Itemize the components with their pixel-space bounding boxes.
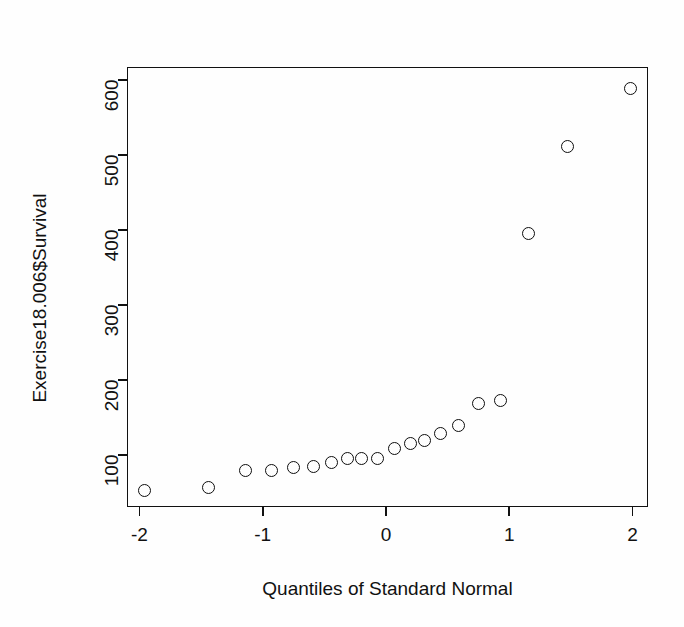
x-tick-label: 2 (603, 525, 663, 544)
x-tick-neg1 (262, 507, 264, 516)
x-tick-label: -1 (233, 525, 293, 544)
y-tick-label: 500 (102, 155, 121, 225)
x-tick-label: 0 (356, 525, 416, 544)
plot-panel-border (127, 67, 648, 507)
x-tick-2 (632, 507, 634, 516)
y-axis-title: Exercise18.006$Survival (29, 148, 51, 448)
x-tick-1 (508, 507, 510, 516)
x-tick-label: -2 (110, 525, 170, 544)
y-tick-label: 300 (102, 305, 121, 375)
y-tick-label: 600 (102, 80, 121, 150)
y-tick-label: 400 (102, 230, 121, 300)
x-tick-label: 1 (479, 525, 539, 544)
x-axis-title: Quantiles of Standard Normal (127, 578, 648, 600)
y-tick-label: 100 (102, 455, 121, 525)
x-tick-0 (385, 507, 387, 516)
qq-plot-figure: -2-1012 100200300400500600 Quantiles of … (0, 0, 684, 627)
y-tick-label: 200 (102, 380, 121, 450)
x-tick-neg2 (139, 507, 141, 516)
